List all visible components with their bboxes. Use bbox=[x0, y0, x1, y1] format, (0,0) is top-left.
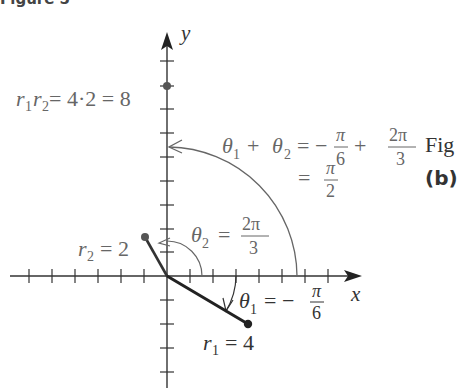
svg-text:θ: θ bbox=[191, 222, 202, 247]
product-label: r 1 r 2 = 4·2 = 8 bbox=[16, 86, 131, 114]
r2-vector bbox=[145, 237, 167, 276]
r2-endpoint-dot bbox=[141, 233, 149, 241]
svg-text:π: π bbox=[336, 125, 346, 145]
product-point-dot bbox=[163, 82, 171, 90]
svg-text:1: 1 bbox=[212, 343, 219, 358]
theta2-arrowhead-icon bbox=[159, 238, 170, 246]
svg-text:6: 6 bbox=[312, 303, 321, 323]
theta2-label: θ 2 = 2π 3 bbox=[191, 214, 269, 258]
svg-text:2: 2 bbox=[202, 236, 209, 251]
theta1-arc bbox=[226, 276, 236, 311]
svg-text:= 4: = 4 bbox=[225, 330, 254, 355]
svg-text:π: π bbox=[312, 281, 322, 301]
svg-text:r: r bbox=[78, 236, 87, 261]
sum-angle-arc bbox=[169, 147, 297, 276]
svg-text:=: = bbox=[218, 222, 230, 247]
svg-text:= −: = − bbox=[264, 288, 294, 313]
svg-text:π: π bbox=[326, 158, 336, 178]
svg-text:2π: 2π bbox=[242, 214, 260, 234]
svg-text:=: = bbox=[298, 165, 310, 190]
svg-text:θ: θ bbox=[239, 288, 250, 313]
svg-text:3: 3 bbox=[249, 238, 258, 258]
r1-endpoint-dot bbox=[244, 320, 252, 328]
sum-angle-label: θ 1 + θ 2 = − π 6 + 2π 3 = π 2 bbox=[222, 125, 416, 201]
r2-label: r 2 = 2 bbox=[78, 236, 129, 264]
svg-text:1: 1 bbox=[233, 147, 240, 162]
svg-text:r: r bbox=[203, 330, 212, 355]
svg-text:θ: θ bbox=[222, 133, 233, 158]
sum-angle-arrowhead-icon bbox=[169, 140, 182, 153]
svg-text:1: 1 bbox=[25, 99, 32, 114]
r1-label: r 1 = 4 bbox=[203, 330, 254, 358]
svg-text:2: 2 bbox=[326, 181, 335, 201]
svg-text:+: + bbox=[354, 133, 366, 158]
svg-text:2: 2 bbox=[42, 99, 49, 114]
x-axis-label: x bbox=[350, 282, 361, 306]
svg-text:2: 2 bbox=[87, 249, 94, 264]
svg-text:2: 2 bbox=[284, 147, 291, 162]
svg-text:= 4·2 = 8: = 4·2 = 8 bbox=[49, 86, 131, 111]
svg-text:+: + bbox=[247, 133, 259, 158]
svg-text:1: 1 bbox=[250, 302, 257, 317]
svg-text:2π: 2π bbox=[389, 125, 407, 145]
svg-text:θ: θ bbox=[272, 133, 283, 158]
svg-text:r: r bbox=[33, 86, 42, 111]
svg-text:= 2: = 2 bbox=[100, 236, 129, 261]
svg-text:r: r bbox=[16, 86, 25, 111]
svg-text:6: 6 bbox=[336, 149, 345, 169]
polar-product-diagram: y x r 1 r 2 = 4·2 = 8 θ 1 + θ 2 = − π 6 … bbox=[0, 0, 474, 391]
svg-text:= −: = − bbox=[297, 133, 327, 158]
svg-text:3: 3 bbox=[396, 149, 405, 169]
y-axis-label: y bbox=[179, 21, 191, 45]
theta1-label: θ 1 = − π 6 bbox=[239, 281, 324, 323]
